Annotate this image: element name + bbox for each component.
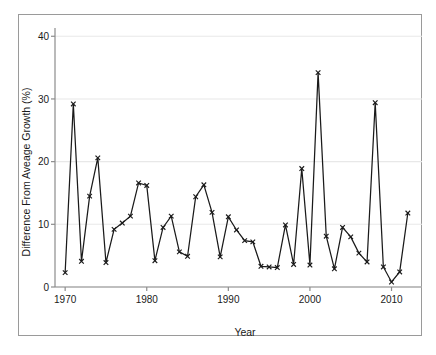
- y-tick-label: 20: [38, 156, 50, 167]
- x-tick-label: 1970: [54, 294, 77, 305]
- line-chart: 010203040 19701980199020002010 Year Diff…: [0, 0, 436, 355]
- data-point-marker: [357, 251, 362, 256]
- x-tick-label: 1980: [136, 294, 159, 305]
- data-series-line: [65, 73, 408, 282]
- gridlines: [55, 36, 422, 287]
- y-tick-label: 40: [38, 31, 50, 42]
- x-tick-label: 2000: [299, 294, 322, 305]
- x-tick-label: 2010: [380, 294, 403, 305]
- y-tick-label: 0: [43, 282, 49, 293]
- y-tick-labels: 010203040: [38, 31, 50, 293]
- data-point-marker: [234, 228, 239, 233]
- y-tick-label: 10: [38, 219, 50, 230]
- x-tick-label: 1990: [217, 294, 240, 305]
- x-axis-label: Year: [234, 326, 256, 338]
- x-tick-labels: 19701980199020002010: [54, 294, 403, 305]
- chart-figure: 010203040 19701980199020002010 Year Diff…: [0, 0, 436, 355]
- y-axis-label: Difference From Aveage Growth (%): [20, 88, 32, 257]
- y-tick-label: 30: [38, 94, 50, 105]
- data-point-markers: [63, 70, 410, 284]
- data-point-marker: [348, 235, 353, 240]
- data-point-marker: [389, 280, 394, 285]
